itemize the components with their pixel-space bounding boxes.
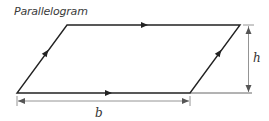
base-arrow-left-icon xyxy=(18,98,25,104)
top-direction-arrow-icon xyxy=(141,22,148,28)
parallelogram-shape xyxy=(17,25,240,93)
base-arrow-right-icon xyxy=(182,98,189,104)
height-arrow-up-icon xyxy=(246,27,252,34)
base-label: b xyxy=(95,106,103,120)
height-arrow-down-icon xyxy=(246,85,252,92)
height-label: h xyxy=(253,51,261,65)
parallelogram-diagram: h b xyxy=(0,0,269,121)
bottom-direction-arrow-icon xyxy=(105,90,112,96)
